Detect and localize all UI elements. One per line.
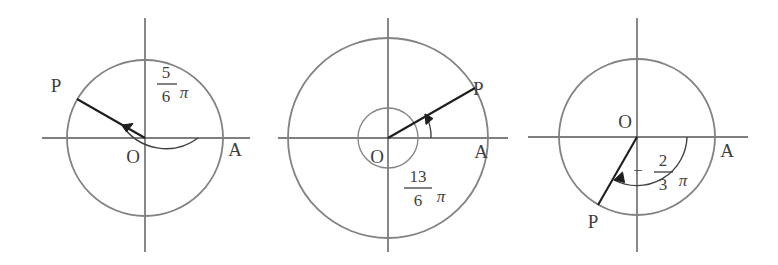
pi-symbol: π [180, 83, 189, 102]
point-label-p: P [473, 78, 484, 99]
angle-arc [614, 137, 687, 186]
angle-numerator: 13 [410, 167, 427, 186]
point-label-o: O [370, 146, 384, 167]
angle-numerator: 5 [162, 63, 171, 82]
point-label-p: P [51, 75, 62, 96]
angle-diagram-figure: P O A 5 6 π P O A 13 6 π [0, 0, 778, 265]
point-label-a: A [720, 140, 734, 161]
circle-diagram-panel-3: P O A − 2 3 π [518, 0, 778, 265]
point-label-a: A [474, 141, 488, 162]
circle-diagram-panel-2: P O A 13 6 π [260, 0, 518, 265]
pi-symbol: π [679, 171, 688, 190]
angle-numerator: 2 [659, 151, 668, 170]
angle-denominator: 3 [659, 175, 668, 194]
pi-symbol: π [437, 187, 446, 206]
terminal-ray-op [598, 137, 637, 205]
angle-sign: − [633, 161, 643, 180]
point-label-a: A [228, 139, 242, 160]
point-label-p: P [588, 211, 599, 232]
point-label-o: O [126, 146, 140, 167]
angle-denominator: 6 [414, 191, 423, 210]
circle-diagram-panel-1: P O A 5 6 π [0, 0, 260, 265]
terminal-ray-op [77, 99, 145, 138]
point-label-o: O [618, 111, 632, 132]
terminal-ray-op [388, 88, 475, 138]
angle-denominator: 6 [162, 87, 171, 106]
